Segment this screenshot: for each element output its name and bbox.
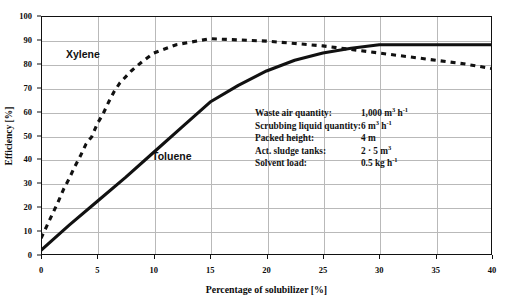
y-tick-label: 90 [2,35,32,45]
x-tick-label: 25 [319,265,328,275]
x-axis-ticks: 0510152025303540 [41,255,492,279]
parameter-key: Solvent load: [255,157,361,170]
parameter-table: Waste air quantity:1,000 m3 h-1Scrubbing… [255,107,408,170]
series-label-xylene: Xylene [66,48,100,60]
x-tick-mark [210,255,211,259]
y-tick-label: 100 [2,11,32,21]
parameter-row: Packed height:4 m [255,132,408,145]
y-tick-label: 40 [2,154,32,164]
y-tick-label: 80 [2,59,32,69]
parameter-value: 6 m3 h-1 [361,120,408,133]
x-tick-mark [267,255,268,259]
x-tick-label: 20 [262,265,271,275]
y-tick-label: 60 [2,107,32,117]
x-tick-label: 35 [431,265,440,275]
y-tick-label: 20 [2,202,32,212]
x-tick-mark [379,255,380,259]
parameter-row: Waste air quantity:1,000 m3 h-1 [255,107,408,120]
y-tick-label: 50 [2,131,32,141]
parameter-key: Waste air quantity: [255,107,361,120]
parameter-row: Act. sludge tanks:2 · 5 m3 [255,145,408,158]
y-tick-label: 0 [2,250,32,260]
x-tick-label: 40 [488,265,497,275]
series-label-toluene: Toluene [152,150,191,162]
x-tick-mark [492,255,493,259]
parameter-key: Scrubbing liquid quantity: [255,120,361,133]
x-tick-label: 15 [206,265,215,275]
x-tick-mark [323,255,324,259]
x-tick-label: 5 [95,265,99,275]
parameter-value: 1,000 m3 h-1 [361,107,408,120]
parameter-annotation-box: Waste air quantity:1,000 m3 h-1Scrubbing… [255,107,408,170]
y-tick-label: 10 [2,226,32,236]
y-axis-ticks: 0102030405060708090100 [0,16,41,255]
parameter-value: 0.5 kg h-1 [361,157,408,170]
x-tick-mark [97,255,98,259]
y-tick-label: 70 [2,83,32,93]
parameter-key: Act. sludge tanks: [255,145,361,158]
x-axis-title: Percentage of solubilizer [%] [41,284,492,295]
parameter-value: 4 m [361,132,408,145]
x-tick-label: 30 [375,265,384,275]
x-tick-mark [154,255,155,259]
chart-figure: Efficiency [%] 0102030405060708090100 05… [0,0,506,308]
parameter-row: Solvent load:0.5 kg h-1 [255,157,408,170]
parameter-row: Scrubbing liquid quantity:6 m3 h-1 [255,120,408,133]
x-tick-mark [436,255,437,259]
x-tick-label: 10 [150,265,159,275]
x-tick-mark [41,255,42,259]
y-tick-label: 30 [2,178,32,188]
parameter-key: Packed height: [255,132,361,145]
x-tick-label: 0 [39,265,43,275]
parameter-value: 2 · 5 m3 [361,145,408,158]
